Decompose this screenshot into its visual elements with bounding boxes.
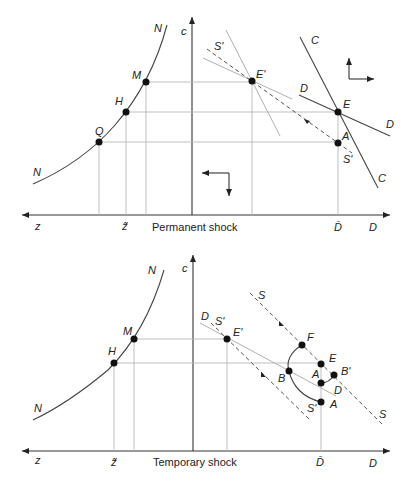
label-c-axis: c: [181, 25, 187, 37]
caption-permanent-shock: Permanent shock: [152, 221, 238, 233]
label-n-top: N: [148, 264, 156, 276]
s-prime-line: [207, 49, 352, 153]
label-b: B: [278, 372, 285, 384]
label-d-bar: D̄: [334, 221, 342, 233]
point-a-upper: [318, 380, 325, 387]
label-h: H: [108, 345, 116, 357]
nn-curve: [33, 25, 167, 184]
point-e-prime: [224, 336, 231, 343]
point-f: [299, 342, 306, 349]
label-s-prime-bottom: S': [343, 153, 353, 165]
label-z-axis: z: [34, 454, 41, 466]
up-right-arrow-icon: [349, 58, 374, 79]
point-h: [123, 109, 130, 116]
label-m: M: [132, 69, 142, 81]
label-n-bottom: N: [34, 402, 42, 414]
label-c-top: C: [311, 34, 319, 46]
guide-lines: [99, 82, 338, 215]
path-f-b: [288, 345, 302, 371]
point-e-prime: [249, 78, 256, 85]
label-c-axis: c: [182, 262, 188, 274]
label-a-upper: A: [311, 368, 319, 380]
label-s-bottom: S: [379, 408, 387, 420]
label-n-top: N: [154, 22, 162, 34]
label-e-prime: E': [233, 326, 243, 338]
label-s-top: S: [258, 289, 266, 301]
label-d-left: D: [201, 310, 209, 322]
label-n-bottom: N: [33, 166, 41, 178]
s-prime-arrow-icon: [261, 372, 266, 377]
point-q: [96, 139, 103, 146]
nn-curve: [33, 270, 164, 420]
guide-lines: [114, 339, 321, 451]
left-down-arrow-icon: [202, 173, 229, 196]
label-d-right: D: [386, 118, 394, 130]
label-c-bottom: C: [378, 172, 386, 184]
label-b-prime: B': [341, 365, 351, 377]
label-z-tilde: z̃: [110, 456, 117, 468]
label-s-prime-bottom: S': [307, 402, 317, 414]
label-m: M: [123, 325, 133, 337]
label-d-axis: D: [369, 457, 377, 469]
point-a-lower: [318, 399, 325, 406]
point-b: [286, 368, 293, 375]
point-e: [318, 361, 325, 368]
point-h: [111, 360, 118, 367]
label-q: Q: [95, 125, 104, 137]
label-a-lower: A: [329, 398, 337, 410]
s-prime-arrow-icon: [304, 119, 310, 124]
point-m: [143, 79, 150, 86]
point-e: [335, 109, 342, 116]
label-h: H: [115, 95, 123, 107]
ss-arrow-icon: [279, 321, 284, 326]
label-f: F: [307, 331, 315, 343]
label-d-left: D: [300, 82, 308, 94]
panel-permanent-shock: N N c M H Q S' E' C D E D A S' C z z̃ Pe…: [22, 17, 394, 233]
label-d-bar: D̄: [316, 456, 324, 468]
label-d-right: D: [334, 384, 342, 396]
label-a: A: [341, 130, 349, 142]
panel-temporary-shock: N N c M H D S' E' S F E B A B' D S' A S …: [22, 255, 390, 469]
point-a: [335, 140, 342, 147]
label-z-axis: z: [34, 220, 41, 232]
label-e: E: [329, 352, 337, 364]
label-z-tilde: z̃: [121, 220, 128, 232]
label-s-prime-top: S': [215, 315, 225, 327]
label-e-prime: E': [256, 68, 266, 80]
label-e: E: [343, 98, 351, 110]
two-panel-diagram: N N c M H Q S' E' C D E D A S' C z z̃ Pe…: [0, 0, 411, 484]
dd-line: [200, 323, 336, 396]
label-d-axis: D: [369, 221, 377, 233]
label-s-prime-top: S': [214, 40, 224, 52]
caption-temporary-shock: Temporary shock: [153, 456, 237, 468]
point-b-prime: [331, 372, 338, 379]
